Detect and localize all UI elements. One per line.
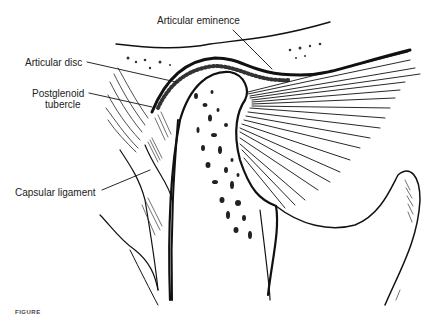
label-capsular-ligament: Capsular ligament [15,187,96,198]
tmj-illustration [0,0,443,322]
leader-capsular [102,170,150,190]
coronoid-process [276,171,420,305]
label-articular-disc: Articular disc [25,57,82,68]
label-postglenoid-line2: tubercle [45,99,81,110]
label-articular-eminence: Articular eminence [157,15,240,26]
figure-caption-fragment: FIGURE [15,309,41,315]
leader-articular-disc [87,62,176,82]
leader-postglenoid [89,93,152,107]
trabecular-bone [194,90,252,239]
label-postglenoid-line1: Postglenoid [32,88,84,99]
